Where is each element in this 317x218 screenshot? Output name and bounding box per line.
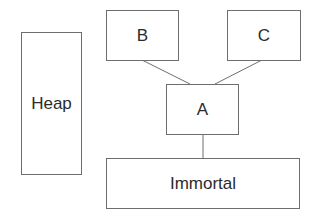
diagram-canvas: Heap B C A Immortal	[0, 0, 317, 218]
edge-b-a	[142, 60, 190, 84]
node-heap-label: Heap	[31, 94, 72, 114]
edge-c-a	[215, 60, 262, 84]
node-a: A	[166, 84, 239, 135]
node-heap: Heap	[21, 32, 82, 175]
node-c: C	[227, 10, 301, 61]
node-immortal: Immortal	[106, 158, 300, 209]
node-b-label: B	[137, 26, 148, 46]
node-a-label: A	[197, 100, 208, 120]
node-c-label: C	[258, 26, 270, 46]
node-immortal-label: Immortal	[170, 174, 236, 194]
node-b: B	[106, 10, 179, 61]
